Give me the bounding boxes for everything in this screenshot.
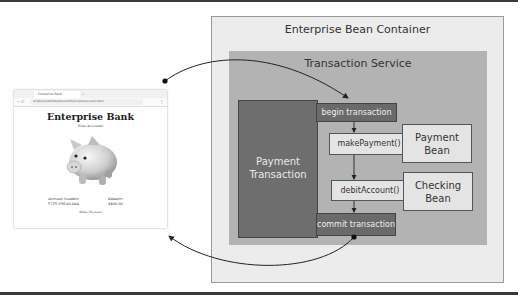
make-payment-link[interactable]: Make Payment (14, 210, 167, 214)
page-title: Enterprise Bank (14, 111, 167, 122)
browser-address-bar: ← C localhost:8181/BankAccountIntercepto… (14, 98, 167, 107)
debit-account-step: debitAccount() (331, 180, 409, 201)
back-reload-icons[interactable]: ← C (17, 98, 25, 106)
begin-transaction-step: begin transaction (316, 103, 397, 122)
request-origin-dot (162, 78, 167, 83)
balance-value: $400.00 (108, 202, 123, 207)
payment-bean: Payment Bean (402, 124, 472, 163)
account-number-column: Account Number 9729-396-XYXXX (48, 197, 79, 207)
browser-tab[interactable]: Enterprise Bank (34, 91, 80, 98)
container-title: Enterprise Bean Container (212, 23, 503, 36)
payment-bean-line1: Payment (403, 131, 471, 144)
url-field[interactable]: localhost:8181/BankAccountInterceptor/ac… (30, 99, 143, 105)
close-tab-icon[interactable]: × (82, 91, 85, 98)
balance-column: Balance $400.00 (108, 197, 123, 207)
make-payment-step: makePayment() (329, 133, 409, 155)
top-rule (0, 0, 518, 2)
browser-menu-icon[interactable]: ⋮ (160, 98, 164, 106)
payment-transaction-line2: Transaction (239, 168, 317, 181)
checking-bean: Checking Bean (403, 172, 473, 211)
piggy-bank-icon (62, 134, 120, 188)
checking-bean-line2: Bean (404, 192, 472, 205)
page-subtitle: Your accounts (14, 124, 167, 128)
payment-transaction-label: Payment Transaction (239, 155, 317, 181)
browser-tab-bar: Enterprise Bank × (14, 90, 167, 98)
payment-transaction-box: Payment Transaction (238, 100, 318, 238)
transaction-service-title: Transaction Service (229, 57, 487, 70)
browser-window: Enterprise Bank × ← C localhost:8181/Ban… (14, 90, 167, 228)
commit-transaction-step: commit transaction (316, 213, 396, 236)
payment-bean-line2: Bean (403, 144, 471, 157)
checking-bean-line1: Checking (404, 179, 472, 192)
payment-transaction-line1: Payment (239, 155, 317, 168)
account-number-value: 9729-396-XYXXX (48, 202, 79, 207)
